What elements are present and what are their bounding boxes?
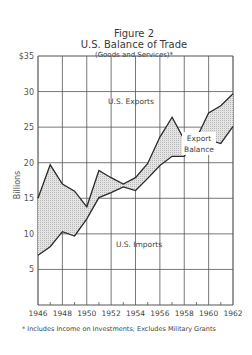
footnote: * Includes Income on Investments; Exclud… [22, 325, 216, 333]
y-tick-label: 20 [24, 159, 34, 168]
exports-label: U.S. Exports [108, 97, 154, 106]
x-tick-label: 1954 [126, 309, 145, 318]
y-tick-label: 25 [24, 123, 34, 132]
y-tick-label: 30 [24, 88, 34, 97]
x-tick-label: 1958 [175, 309, 194, 318]
x-tick-label: 1950 [77, 309, 96, 318]
x-axis-ticks: 194619481950195219541956195819601962 [28, 309, 242, 318]
imports-label: U.S. Imports [116, 240, 162, 249]
y-tick-label: 15 [24, 194, 34, 203]
x-tick-label: 1952 [102, 309, 121, 318]
x-tick-label: 1960 [199, 309, 218, 318]
x-tick-label: 1962 [223, 309, 242, 318]
y-tick-label: 10 [24, 230, 34, 239]
y-tick-label: $35 [19, 52, 34, 61]
x-tick-label: 1946 [28, 309, 47, 318]
balance-of-trade-chart: $3530252015105 1946194819501952195419561… [0, 0, 252, 355]
x-tick-label: 1956 [150, 309, 169, 318]
x-tick-label: 1948 [53, 309, 72, 318]
balance-label-line1: Export [187, 134, 212, 143]
balance-label-line2: Balance [184, 145, 214, 154]
y-tick-label: 5 [29, 265, 34, 274]
y-axis-ticks: $3530252015105 [19, 52, 34, 274]
y-axis-label: Billions [13, 171, 22, 200]
